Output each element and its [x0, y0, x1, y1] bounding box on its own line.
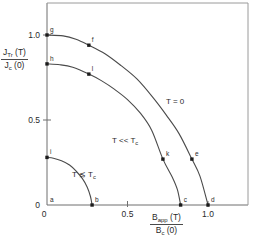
- marker-c: [179, 203, 182, 206]
- annotation-t-lesssim-tc: T ≲ Tc: [72, 170, 96, 180]
- point-label-d: d: [211, 196, 215, 203]
- marker-l: [87, 72, 90, 75]
- marker-k: [161, 157, 164, 160]
- y-axis-numerator: JTr (T): [1, 48, 28, 60]
- marker-h: [45, 62, 48, 65]
- point-label-c: c: [184, 196, 188, 203]
- point-label-i: i: [50, 148, 51, 155]
- x-tick-label-origin: 0: [42, 209, 47, 219]
- curve-0: [47, 35, 208, 205]
- y-tick-label: 0: [35, 200, 40, 210]
- curve-2: [47, 157, 92, 205]
- marker-g: [45, 33, 48, 36]
- y-tick-label: 1.0: [28, 30, 40, 40]
- point-label-e: e: [195, 150, 199, 157]
- point-label-b: b: [95, 196, 99, 203]
- x-axis-numerator: Bapp (T): [150, 213, 183, 225]
- point-label-g: g: [50, 26, 54, 34]
- tick-labels: 00.51.00.51.00: [28, 30, 214, 219]
- point-label-l: l: [92, 65, 94, 72]
- marker-d: [206, 203, 209, 206]
- annotation-t-equals-zero: T = 0: [166, 97, 185, 106]
- marker-f: [87, 44, 90, 47]
- y-axis-denominator: Jc (0): [1, 60, 28, 71]
- marker-b: [90, 203, 93, 206]
- annotation-t-much-less-tc: T << Tc: [112, 136, 138, 146]
- point-label-h: h: [50, 55, 54, 62]
- point-label-k: k: [166, 150, 170, 157]
- curve-annotations: T = 0T << TcT ≲ Tc: [72, 97, 185, 180]
- point-label-f: f: [92, 36, 94, 43]
- plot-canvas: 00.51.00.51.00 gfedhlkciba T = 0T << TcT…: [0, 0, 253, 252]
- y-tick-label: 0.5: [28, 115, 40, 125]
- data-curves: [47, 35, 208, 205]
- axis-ticks: [43, 35, 208, 207]
- data-markers: [45, 33, 209, 206]
- curve-1: [47, 64, 181, 205]
- point-label-a: a: [50, 196, 54, 203]
- x-tick-label: 0.5: [122, 209, 134, 219]
- chart-figure: 00.51.00.51.00 gfedhlkciba T = 0T << TcT…: [0, 0, 253, 252]
- marker-e: [190, 157, 193, 160]
- marker-i: [45, 156, 48, 159]
- y-axis-title: JTr (T) Jc (0): [1, 48, 28, 72]
- x-axis-denominator: Bc (0): [150, 225, 183, 236]
- x-axis-title: Bapp (T) Bc (0): [150, 213, 183, 237]
- x-tick-label: 1.0: [202, 209, 214, 219]
